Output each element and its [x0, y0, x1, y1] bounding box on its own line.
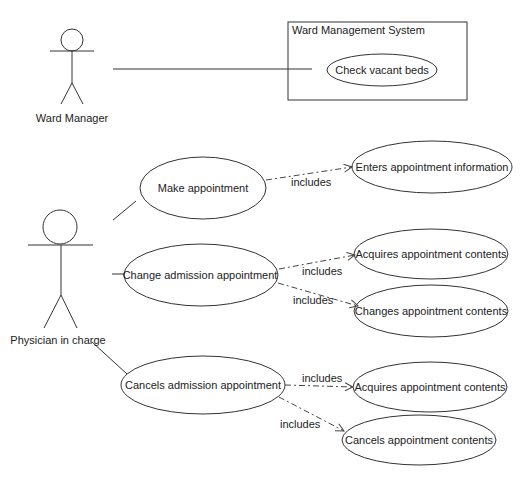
use-case-label: Acquires appointment contents — [355, 248, 507, 260]
actor-leg-left — [61, 83, 72, 104]
use-case-acquires-appointment-contents-2[interactable]: Acquires appointment contents — [353, 362, 507, 412]
use-case-label: Make appointment — [158, 182, 249, 194]
use-case-label: Acquires appointment contents — [354, 381, 506, 393]
use-case-label: Cancels admission appointment — [125, 379, 281, 391]
association-physician-cancels-admission — [92, 342, 127, 374]
actor-leg-right — [72, 83, 83, 104]
association-physician-make-appointment — [113, 201, 136, 220]
use-case-label: Changes appointment contents — [355, 305, 508, 317]
actor-label-physician: Physician in charge — [10, 334, 105, 346]
use-case-label: Cancels appointment contents — [345, 434, 493, 446]
include-label: includes — [291, 176, 332, 188]
include-arrow-cancels-acquires — [285, 385, 353, 387]
include-label: includes — [302, 372, 343, 384]
actor-head-icon — [61, 29, 83, 51]
actor-leg-right — [61, 295, 77, 328]
use-case-cancels-appointment-contents[interactable]: Cancels appointment contents — [342, 415, 496, 465]
actor-physician-in-charge[interactable]: Physician in charge — [10, 210, 105, 346]
use-case-change-admission-appointment[interactable]: Change admission appointment — [123, 244, 278, 306]
use-case-check-vacant-beds[interactable]: Check vacant beds — [327, 54, 437, 86]
include-label: includes — [302, 265, 343, 277]
use-case-label: Enters appointment information — [356, 161, 509, 173]
use-case-changes-appointment-contents[interactable]: Changes appointment contents — [354, 285, 508, 337]
actor-label-ward-manager: Ward Manager — [36, 112, 109, 124]
use-case-make-appointment[interactable]: Make appointment — [140, 157, 266, 219]
use-case-label: Change admission appointment — [123, 269, 278, 281]
system-boundary-title: Ward Management System — [292, 24, 425, 36]
use-case-enters-appointment-information[interactable]: Enters appointment information — [352, 141, 512, 193]
actor-leg-left — [44, 295, 61, 328]
actor-head-icon — [43, 210, 77, 244]
include-label: includes — [280, 418, 321, 430]
use-case-cancels-admission-appointment[interactable]: Cancels admission appointment — [121, 356, 285, 414]
use-case-label: Check vacant beds — [335, 64, 429, 76]
use-case-acquires-appointment-contents-1[interactable]: Acquires appointment contents — [354, 229, 508, 279]
include-label: includes — [293, 294, 334, 306]
actor-ward-manager[interactable]: Ward Manager — [36, 29, 109, 124]
